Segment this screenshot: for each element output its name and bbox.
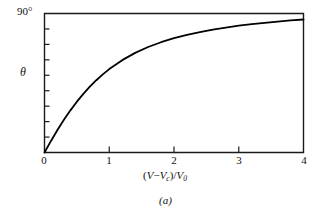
x-axis-title-v2-subscript: c: [166, 174, 169, 183]
x-tick-label-2: 2: [166, 155, 182, 166]
data-series-theta: [45, 20, 304, 153]
y-axis-ticks: [45, 29, 50, 137]
x-tick-label-3: 3: [231, 155, 247, 166]
x-axis-title: (V−Vc)/V0: [143, 170, 187, 181]
figure-caption: (a): [159, 195, 172, 206]
x-tick-label-0: 0: [36, 155, 52, 166]
figure-container: 90° θ 0 1 2 3 4 (V−Vc)/V0 (a): [0, 0, 335, 217]
x-tick-label-4: 4: [296, 155, 312, 166]
y-axis-title: θ: [20, 66, 26, 78]
x-axis-title-v3-subscript: 0: [183, 174, 187, 183]
x-axis-ticks: [109, 147, 239, 153]
x-tick-label-1: 1: [101, 155, 117, 166]
y-axis-max-label: 90°: [17, 6, 32, 17]
axis-box: [45, 14, 304, 153]
plot-frame: [45, 14, 304, 153]
chart-plot-area: [0, 0, 335, 217]
